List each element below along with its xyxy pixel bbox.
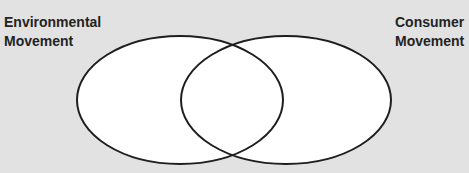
venn-diagram bbox=[0, 0, 469, 173]
